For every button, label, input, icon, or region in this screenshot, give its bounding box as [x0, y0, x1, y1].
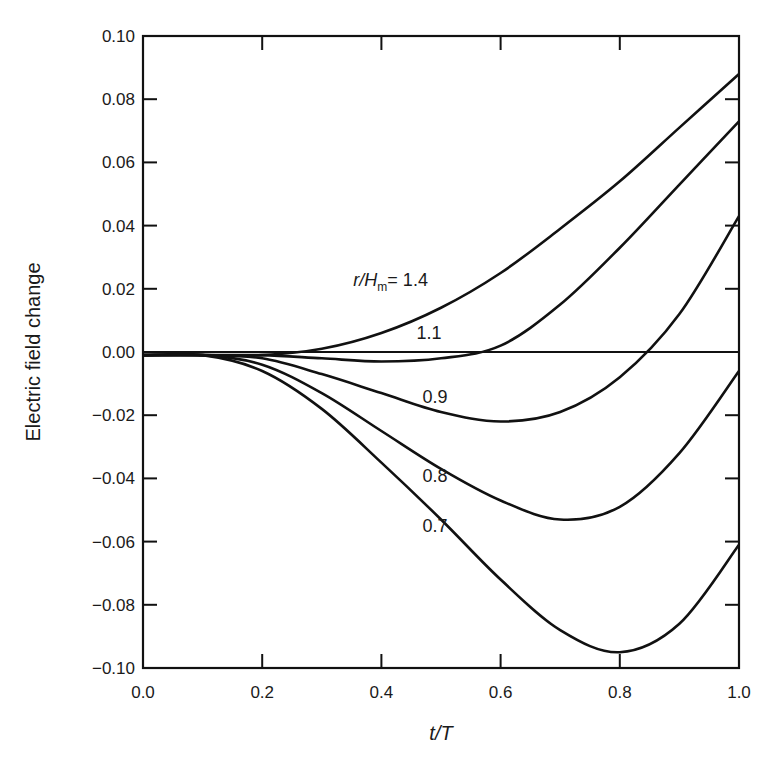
x-tick-label: 0.8	[608, 683, 632, 702]
curve-0.8	[143, 354, 739, 519]
x-tick-label: 0.2	[250, 683, 274, 702]
y-tick-label: 0.02	[102, 280, 135, 299]
x-axis-ticks: 0.00.20.40.60.81.0	[131, 36, 751, 702]
curve-label: 0.9	[423, 387, 448, 407]
y-tick-label: −0.10	[92, 659, 135, 678]
curve-label: r/Hm= 1.4	[353, 270, 428, 294]
y-tick-label: −0.02	[92, 406, 135, 425]
y-tick-label: 0.06	[102, 153, 135, 172]
y-tick-label: −0.08	[92, 596, 135, 615]
curve-label: 0.7	[423, 516, 448, 536]
y-tick-label: 0.00	[102, 343, 135, 362]
y-tick-label: 0.04	[102, 217, 135, 236]
y-tick-label: −0.06	[92, 533, 135, 552]
x-tick-label: 0.4	[370, 683, 394, 702]
x-tick-label: 1.0	[727, 683, 751, 702]
x-axis-title: t/T	[429, 722, 454, 744]
x-tick-label: 0.0	[131, 683, 155, 702]
y-tick-label: 0.08	[102, 90, 135, 109]
data-curves	[143, 74, 739, 652]
x-tick-label: 0.6	[489, 683, 513, 702]
line-chart: 0.100.080.060.040.020.00−0.02−0.04−0.06−…	[0, 0, 776, 768]
y-tick-label: −0.04	[92, 469, 135, 488]
curve-labels: r/Hm= 1.41.10.90.80.7	[353, 270, 447, 536]
curve-label: 1.1	[417, 323, 442, 343]
y-tick-label: 0.10	[102, 27, 135, 46]
curve-label: 0.8	[423, 466, 448, 486]
y-axis-title: Electric field change	[22, 263, 44, 442]
